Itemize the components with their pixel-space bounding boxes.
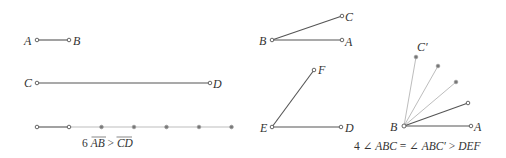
angle-copies: B A C′	[390, 40, 482, 134]
label-d: D	[344, 121, 354, 135]
caption-eq: = ∠	[397, 140, 422, 152]
point-f-icon	[312, 68, 316, 72]
svg-text:6 AB > CD: 6 AB > CD	[82, 137, 134, 149]
angles-caption: 4 ∠ ABC = ∠ ABC′ > DEF	[354, 140, 481, 152]
label-b: B	[259, 34, 267, 48]
label-a: A	[23, 34, 32, 48]
caption-def: DEF	[457, 140, 481, 152]
point-b-icon	[402, 124, 406, 128]
caption-abc-prime: ABC′	[421, 140, 447, 152]
point-c-icon	[340, 14, 344, 18]
label-b: B	[73, 34, 81, 48]
label-a: A	[344, 35, 353, 49]
label-e: E	[259, 121, 268, 135]
caption-prefix: 4 ∠	[354, 140, 375, 152]
ruler-tick-icon	[100, 125, 104, 129]
label-c-prime: C′	[417, 40, 428, 54]
ruler-tick-icon	[165, 125, 169, 129]
angle-def: E F D	[259, 63, 354, 135]
point-e-icon	[270, 125, 274, 129]
copy-point-icon	[454, 80, 458, 84]
point-a-icon	[340, 38, 344, 42]
point-c-icon	[35, 81, 39, 85]
caption-prefix: 6	[82, 137, 91, 149]
ruler-six-ab	[35, 125, 233, 129]
label-a: A	[473, 120, 482, 134]
point-d-icon	[339, 125, 343, 129]
point-a-icon	[35, 38, 39, 42]
ruler-tick-icon	[230, 125, 234, 129]
copy-point-icon	[436, 64, 440, 68]
ruler-tick-icon	[132, 125, 136, 129]
ruler-tick-icon	[67, 125, 71, 129]
label-c: C	[345, 10, 354, 24]
point-a-icon	[469, 124, 473, 128]
segments-caption: 6 AB > CD	[82, 137, 134, 149]
geometry-diagram: A B C D 6 AB > CD B C A	[0, 0, 506, 158]
caption-ab: AB	[90, 137, 105, 149]
segment-ab: A B	[23, 34, 81, 48]
point-b-icon	[270, 38, 274, 42]
ruler-tick-icon	[35, 125, 39, 129]
label-b: B	[390, 120, 398, 134]
label-d: D	[212, 77, 222, 91]
svg-text:4 ∠ ABC = ∠ ABC′ > DEF: 4 ∠ ABC = ∠ ABC′ > DEF	[354, 140, 481, 152]
segment-cd: C D	[24, 76, 222, 91]
label-c: C	[24, 76, 33, 90]
label-f: F	[317, 63, 326, 77]
point-b-icon	[67, 38, 71, 42]
caption-gt: >	[105, 137, 117, 149]
angle-abc: B C A	[259, 10, 354, 49]
point-d-icon	[208, 81, 212, 85]
caption-cd: CD	[117, 137, 134, 149]
point-c-icon	[466, 101, 470, 105]
caption-abc: ABC	[374, 140, 397, 152]
ruler-tick-icon	[197, 125, 201, 129]
point-c-prime-icon	[414, 55, 418, 59]
caption-gt: >	[446, 140, 458, 152]
